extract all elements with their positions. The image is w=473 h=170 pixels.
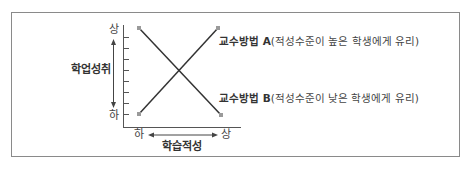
y-axis-bottom-label: 하 <box>109 110 119 121</box>
line-method-b <box>139 28 221 115</box>
legend-method-a-name: 교수방법 A <box>219 35 271 47</box>
legend-method-b-name: 교수방법 B <box>219 92 271 104</box>
x-axis-right-label: 상 <box>221 129 231 140</box>
legend-method-a-desc: (적성수준이 높은 학생에게 유리) <box>271 35 419 47</box>
legend-method-a: 교수방법 A(적성수준이 높은 학생에게 유리) <box>219 36 419 47</box>
legend-method-b: 교수방법 B(적성수준이 낮은 학생에게 유리) <box>219 93 419 104</box>
x-axis-title: 학습적성 <box>162 141 202 152</box>
y-axis-arrow <box>111 39 116 108</box>
y-axis-top-label: 상 <box>109 24 119 35</box>
x-axis-left-label: 하 <box>134 129 144 140</box>
y-axis-title: 학업성취 <box>71 64 111 75</box>
interaction-plot <box>0 0 473 170</box>
x-axis-arrow <box>148 133 218 138</box>
legend-method-b-desc: (적성수준이 낮은 학생에게 유리) <box>271 92 419 104</box>
